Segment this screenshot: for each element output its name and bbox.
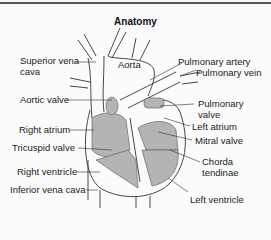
- label-tricuspid-valve: Tricuspid valve: [12, 142, 75, 153]
- label-superior-vena-cava: Superior venacava: [20, 55, 79, 77]
- label-mitral-valve: Mitral valve: [195, 135, 243, 146]
- label-pulmonary-vein: Pulmonary vein: [196, 67, 261, 78]
- label-left-atrium: Left atrium: [192, 121, 237, 132]
- label-pulmonary-artery: Pulmonary artery: [178, 56, 250, 67]
- label-right-atrium: Right atrium: [19, 124, 70, 135]
- label-inferior-vena-cava: Inferior vena cava: [10, 184, 86, 195]
- label-chorda-tendinae: Chordatendinae: [202, 156, 238, 178]
- label-aortic-valve: Aortic valve: [20, 94, 69, 105]
- label-left-ventricle: Left ventricle: [190, 194, 244, 205]
- label-aorta: Aorta: [118, 59, 141, 70]
- label-pulmonary-valve: Pulmonaryvalve: [198, 98, 243, 120]
- label-right-ventricle: Right ventricle: [17, 166, 77, 177]
